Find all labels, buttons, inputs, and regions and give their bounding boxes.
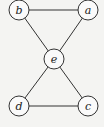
node-label: b xyxy=(15,4,22,17)
node-c: c xyxy=(78,96,98,116)
node-a: a xyxy=(78,0,98,20)
node-d: d xyxy=(9,96,29,116)
node-label: c xyxy=(85,100,91,113)
node-label: e xyxy=(51,53,58,66)
node-b: b xyxy=(9,0,29,20)
graph-diagram: baedc xyxy=(0,0,104,127)
node-e: e xyxy=(44,49,64,69)
node-label: a xyxy=(85,4,92,17)
node-label: d xyxy=(15,100,22,113)
